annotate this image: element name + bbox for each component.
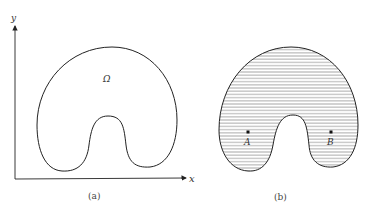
region-hatched bbox=[219, 47, 358, 171]
x-axis-label: x bbox=[189, 173, 195, 184]
point-a-marker bbox=[247, 131, 250, 134]
x-axis bbox=[15, 178, 186, 179]
point-b-label: B bbox=[326, 137, 334, 147]
point-a-label: A bbox=[243, 137, 251, 147]
panel-b: A B (b) bbox=[219, 47, 358, 202]
region-omega-outline bbox=[37, 47, 177, 171]
region-label-omega: Ω bbox=[102, 74, 111, 84]
point-b-marker bbox=[330, 131, 333, 134]
figure: y x Ω (a) A B (b) bbox=[0, 0, 366, 210]
panel-a: y x Ω (a) bbox=[10, 13, 195, 201]
caption-b: (b) bbox=[274, 192, 287, 202]
caption-a: (a) bbox=[88, 191, 100, 201]
y-axis-label: y bbox=[10, 13, 17, 23]
